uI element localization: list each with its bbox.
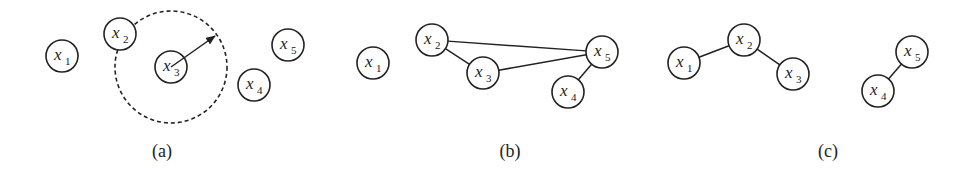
- node-label: x: [53, 45, 62, 64]
- node-subscript: 3: [486, 72, 492, 84]
- node-x2: x2: [104, 18, 136, 50]
- node-x1: x1: [668, 47, 700, 79]
- node-subscript: 2: [747, 39, 753, 51]
- node-circle: [862, 75, 894, 107]
- node-x4: x4: [552, 76, 584, 108]
- node-circle: [357, 47, 389, 79]
- node-subscript: 2: [123, 33, 129, 45]
- node-subscript: 1: [65, 55, 71, 67]
- node-x5: x5: [272, 29, 304, 61]
- radius-arrow: [171, 36, 215, 67]
- node-subscript: 1: [687, 62, 693, 74]
- node-subscript: 5: [605, 51, 611, 63]
- node-subscript: 1: [376, 62, 382, 74]
- node-subscript: 3: [796, 73, 802, 85]
- node-label: x: [364, 52, 373, 71]
- edge-x2-x5: [448, 41, 586, 51]
- node-x5: x5: [586, 36, 618, 68]
- edge-x5-x4: [889, 64, 902, 79]
- figure-canvas: x1x2x3x4x5x1x2x3x4x5x1x2x3x4x5 (a)(b)(c): [0, 0, 971, 174]
- node-subscript: 5: [291, 44, 297, 56]
- node-subscript: 4: [571, 91, 577, 103]
- node-x3: x3: [467, 57, 499, 89]
- node-label: x: [675, 52, 684, 71]
- node-subscript: 5: [915, 51, 921, 63]
- node-label: x: [735, 29, 744, 48]
- node-label: x: [559, 81, 568, 100]
- node-label: x: [279, 34, 288, 53]
- edge-x3-x5: [499, 55, 586, 70]
- edge-x2-x3: [757, 49, 780, 65]
- node-circle: [467, 57, 499, 89]
- node-circle: [586, 36, 618, 68]
- node-label: x: [903, 41, 912, 60]
- node-x2: x2: [416, 24, 448, 56]
- node-circle: [552, 76, 584, 108]
- node-label: x: [162, 56, 171, 75]
- node-label: x: [784, 63, 793, 82]
- node-circle: [272, 29, 304, 61]
- node-label: x: [423, 29, 432, 48]
- node-subscript: 4: [881, 90, 887, 102]
- node-x1: x1: [357, 47, 389, 79]
- edge-x5-x4: [578, 64, 591, 80]
- captions-layer: (a)(b)(c): [152, 141, 838, 162]
- node-label: x: [474, 62, 483, 81]
- node-label: x: [593, 41, 602, 60]
- node-x2: x2: [728, 24, 760, 56]
- node-circle: [46, 40, 78, 72]
- node-circle: [238, 69, 270, 101]
- node-circle: [777, 58, 809, 90]
- node-x4: x4: [238, 69, 270, 101]
- nodes-layer: x1x2x3x4x5x1x2x3x4x5x1x2x3x4x5: [46, 18, 928, 108]
- node-label: x: [111, 23, 120, 42]
- node-x1: x1: [46, 40, 78, 72]
- panel-caption-a: (a): [152, 141, 172, 162]
- panel-caption-c: (c): [818, 141, 838, 162]
- node-circle: [104, 18, 136, 50]
- edge-x2-x3: [445, 49, 469, 65]
- graph-construction-figure: x1x2x3x4x5x1x2x3x4x5x1x2x3x4x5 (a)(b)(c): [0, 0, 971, 174]
- node-x4: x4: [862, 75, 894, 107]
- node-subscript: 3: [174, 66, 180, 78]
- overlay-layer: [171, 36, 215, 67]
- node-x3: x3: [777, 58, 809, 90]
- node-label: x: [869, 80, 878, 99]
- node-label: x: [245, 74, 254, 93]
- node-x5: x5: [896, 36, 928, 68]
- node-circle: [668, 47, 700, 79]
- node-circle: [416, 24, 448, 56]
- node-circle: [728, 24, 760, 56]
- node-subscript: 4: [257, 84, 263, 96]
- node-subscript: 2: [435, 39, 441, 51]
- panel-caption-b: (b): [500, 141, 521, 162]
- edge-x1-x2: [699, 46, 729, 58]
- node-circle: [896, 36, 928, 68]
